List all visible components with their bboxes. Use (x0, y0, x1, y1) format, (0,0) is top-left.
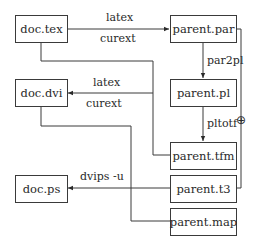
edge-label-pltotf: pltotf (207, 117, 237, 130)
node-parent-pl: parent.pl (170, 79, 237, 107)
edge-label-curext-dvi: curext (86, 97, 122, 110)
edge-label-dvips: dvips -u (80, 170, 124, 183)
node-doc-ps: doc.ps (15, 175, 68, 203)
junction-plus-circle-icon: ⊕ (236, 113, 246, 127)
edge-label-latex-top: latex (106, 11, 133, 24)
node-parent-t3: parent.t3 (170, 175, 237, 203)
node-parent-map: parent.map (170, 208, 237, 236)
node-parent-par: parent.par (170, 15, 237, 43)
node-parent-tfm: parent.tfm (170, 142, 237, 170)
edge-label-curext-top: curext (100, 32, 136, 45)
node-doc-dvi: doc.dvi (15, 79, 68, 107)
edge-label-latex-dvi: latex (93, 76, 120, 89)
node-doc-tex: doc.tex (15, 15, 68, 43)
edge-label-par2pl: par2pl (207, 54, 243, 67)
